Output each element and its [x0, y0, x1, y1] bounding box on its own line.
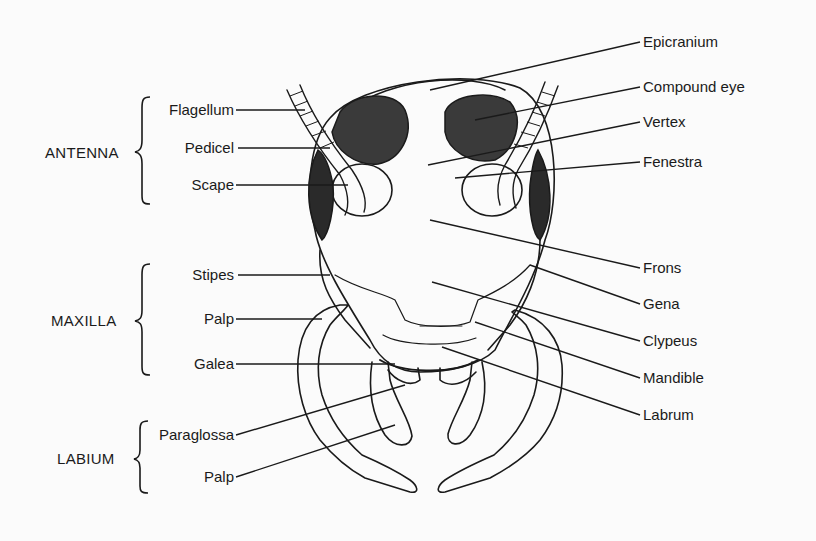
label-scape: Scape — [134, 177, 234, 193]
label-paraglossa: Paraglossa — [134, 427, 234, 443]
leader-labrum — [442, 347, 640, 415]
leader-epicranium — [430, 42, 640, 90]
group-label-antenna: ANTENNA — [45, 145, 119, 161]
label-stipes: Stipes — [134, 267, 234, 283]
label-frons: Frons — [643, 260, 681, 276]
label-fenestra: Fenestra — [643, 154, 702, 170]
label-clypeus: Clypeus — [643, 333, 697, 349]
label-vertex: Vertex — [643, 114, 686, 130]
leader-paraglossa — [236, 385, 405, 435]
label-gena: Gena — [643, 296, 680, 312]
label-pedicel: Pedicel — [134, 140, 234, 156]
label-labrum: Labrum — [643, 407, 694, 423]
leader-gena — [530, 265, 640, 304]
insect-head-diagram: ANTENNA MAXILLA LABIUM Flagellum Pedicel… — [0, 0, 816, 541]
left-lateral-eye-band — [309, 150, 334, 240]
label-flagellum: Flagellum — [134, 102, 234, 118]
label-epicranium: Epicranium — [643, 34, 718, 50]
group-label-labium: LABIUM — [57, 451, 115, 467]
label-labium-palp: Palp — [134, 469, 234, 485]
right-lateral-eye-band — [530, 150, 550, 240]
group-label-maxilla: MAXILLA — [51, 313, 116, 329]
leader-mandible — [475, 322, 640, 378]
label-compound-eye: Compound eye — [643, 79, 745, 95]
label-maxilla-palp: Palp — [134, 311, 234, 327]
right-compound-eye — [445, 95, 517, 161]
label-galea: Galea — [134, 356, 234, 372]
label-mandible: Mandible — [643, 370, 704, 386]
leader-clypeus — [432, 282, 640, 341]
